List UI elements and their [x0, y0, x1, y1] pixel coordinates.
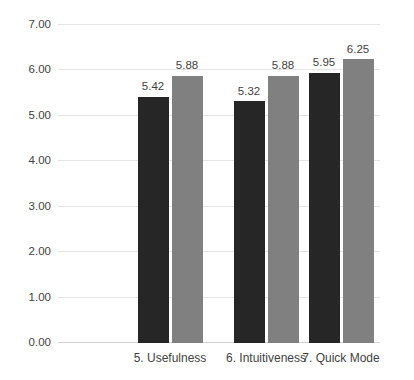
bar-slot: 5.88 — [268, 25, 299, 343]
bar-value-label: 5.32 — [238, 86, 260, 98]
bar-slot: 5.42 — [138, 25, 169, 343]
y-axis-tick-label: 7.00 — [5, 19, 51, 31]
bar[interactable] — [268, 76, 299, 343]
bar-value-label: 5.95 — [313, 57, 335, 69]
bar-group: 5.425.88 — [138, 25, 203, 343]
bar-value-label: 5.88 — [272, 60, 294, 72]
y-axis-tick-label: 0.00 — [5, 337, 51, 349]
y-axis-tick-label: 1.00 — [5, 292, 51, 304]
bar-value-label: 5.42 — [142, 81, 164, 93]
bar-group: 5.325.88 — [234, 25, 299, 343]
bar-value-label: 6.25 — [347, 44, 369, 56]
bar-group: 5.956.25 — [309, 25, 374, 343]
bar-slot: 5.88 — [172, 25, 203, 343]
y-axis-tick-label: 3.00 — [5, 201, 51, 213]
bar-slot: 6.25 — [343, 25, 374, 343]
y-axis-tick-label: 5.00 — [5, 110, 51, 122]
bar[interactable] — [234, 101, 265, 343]
clipped-legend-strip — [0, 0, 414, 9]
plot-area: 5.425.885.325.885.956.25 — [58, 25, 380, 343]
y-axis-tick-label: 2.00 — [5, 246, 51, 258]
bar[interactable] — [138, 97, 169, 343]
bar-slot: 5.32 — [234, 25, 265, 343]
bar-chart: 7.006.005.004.003.002.001.000.00 5.425.8… — [0, 0, 414, 380]
bar[interactable] — [343, 59, 374, 343]
bar-value-label: 5.88 — [176, 60, 198, 72]
bar[interactable] — [172, 76, 203, 343]
bar-slot: 5.95 — [309, 25, 340, 343]
y-axis-tick-label: 6.00 — [5, 65, 51, 77]
y-axis-tick-label: 4.00 — [5, 156, 51, 168]
bar[interactable] — [309, 73, 340, 343]
x-axis-category-label: 7. Quick Mode — [261, 352, 414, 364]
